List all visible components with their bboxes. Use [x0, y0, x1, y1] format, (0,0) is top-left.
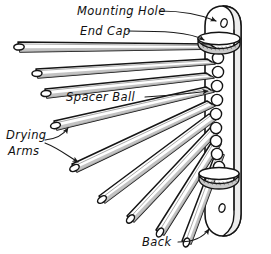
label-back: Back [142, 235, 172, 249]
leader-drying-arms-lower [45, 143, 78, 162]
label-drying-arms-line1: Drying [6, 128, 47, 142]
spacer-ball-3 [211, 80, 222, 91]
spacer-ball-4 [211, 94, 222, 105]
end-cap-top [198, 32, 240, 54]
drying-arm-1 [14, 42, 217, 52]
label-end-cap: End Cap [80, 24, 131, 38]
label-drying-arms-line2: Arms [7, 144, 39, 158]
spacer-ball-5 [210, 108, 221, 119]
end-cap-top-face [198, 32, 240, 44]
drying-arm-7-tip [125, 213, 136, 224]
spacer-ball-8 [211, 148, 222, 159]
drying-arm-3-tip [41, 90, 52, 97]
spacer-ball-2 [212, 66, 223, 77]
drying-arm-6-tip [96, 194, 108, 205]
end-cap-bottom-face [199, 168, 239, 180]
spacer-ball-7 [210, 135, 221, 146]
spacer-ball-6 [210, 122, 221, 133]
drying-rack-illustration: Wall-Mounted Drying Rack Exploded Parts … [0, 0, 271, 254]
diagram-canvas: Wall-Mounted Drying Rack Exploded Parts … [0, 0, 271, 254]
leader-end-cap [128, 31, 204, 40]
label-spacer-ball: Spacer Ball [66, 90, 136, 104]
drying-arm-1-tip [14, 44, 25, 50]
end-cap-bottom [199, 168, 239, 190]
drying-arm-2-tip [32, 70, 42, 77]
label-mounting-hole: Mounting Hole [77, 4, 166, 18]
